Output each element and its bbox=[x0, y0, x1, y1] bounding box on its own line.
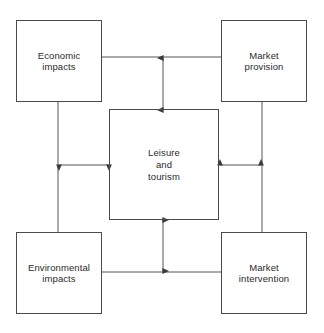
diagram-canvas: Economic impacts Market provision Leisur… bbox=[0, 0, 324, 333]
node-economic-impacts: Economic impacts bbox=[16, 20, 102, 102]
node-market-intervention-label: Market intervention bbox=[236, 262, 292, 285]
node-environmental-impacts-label: Environmental impacts bbox=[25, 262, 93, 285]
node-leisure-and-tourism-label: Leisure and tourism bbox=[145, 147, 183, 183]
node-economic-impacts-label: Economic impacts bbox=[35, 50, 84, 73]
node-leisure-and-tourism: Leisure and tourism bbox=[109, 109, 219, 220]
node-environmental-impacts: Environmental impacts bbox=[16, 232, 102, 314]
node-market-provision-label: Market provision bbox=[242, 50, 287, 73]
node-market-intervention: Market intervention bbox=[221, 232, 307, 314]
node-market-provision: Market provision bbox=[221, 20, 307, 102]
